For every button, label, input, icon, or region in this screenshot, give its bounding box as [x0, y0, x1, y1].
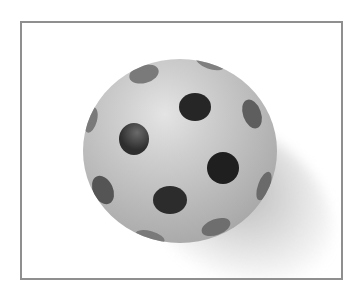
ball-dot — [83, 106, 100, 134]
ball-dot — [127, 61, 161, 86]
ball-dot — [194, 59, 227, 74]
ball-dot — [238, 97, 265, 131]
ball-dot — [88, 172, 119, 208]
ball-dot — [179, 93, 211, 121]
ball-dot — [119, 123, 149, 155]
ball-dot — [207, 152, 239, 184]
ball-dot — [134, 227, 166, 243]
polka-dot-ball — [83, 59, 277, 243]
photo-frame — [20, 21, 343, 280]
ball-dot — [153, 186, 187, 214]
